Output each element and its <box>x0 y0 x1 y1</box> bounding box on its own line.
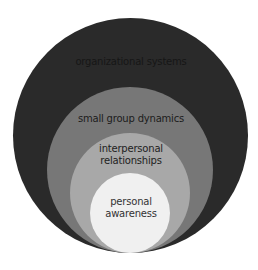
label-interpersonal-relationships: interpersonal relationships <box>2 143 258 167</box>
nested-circles-diagram: organizational systems small group dynam… <box>0 0 258 270</box>
label-small-group-dynamics: small group dynamics <box>2 113 258 125</box>
label-personal-awareness: personal awareness <box>2 196 258 220</box>
label-line: awareness <box>2 208 258 220</box>
label-line: relationships <box>2 155 258 167</box>
label-line: small group dynamics <box>2 113 258 125</box>
label-line: interpersonal <box>2 143 258 155</box>
label-line: organizational systems <box>2 56 258 68</box>
label-organizational-systems: organizational systems <box>2 56 258 68</box>
label-line: personal <box>2 196 258 208</box>
